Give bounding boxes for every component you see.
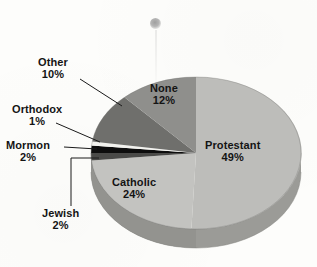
pie-top-face (91, 77, 302, 229)
leader-line-other (80, 79, 122, 106)
leader-line-orthodox (56, 123, 100, 142)
slice-label-jewish: Jewish 2% (42, 208, 79, 232)
slice-label-mormon-pct: 2% (6, 152, 50, 164)
slice-label-none-pct: 12% (150, 95, 178, 107)
slice-label-mormon: Mormon 2% (6, 140, 50, 164)
slice-label-jewish-pct: 2% (42, 220, 79, 232)
slice-label-catholic: Catholic 24% (112, 177, 156, 201)
slice-label-catholic-pct: 24% (112, 189, 156, 201)
slice-label-none: None 12% (150, 83, 178, 107)
slice-label-protestant-pct: 49% (205, 152, 260, 164)
slice-label-orthodox: Orthodox 1% (12, 104, 62, 128)
slice-label-other: Other 10% (38, 57, 68, 81)
slice-label-orthodox-pct: 1% (12, 116, 62, 128)
chart-canvas: Other 10% Orthodox 1% Mormon 2% Jewish 2… (0, 0, 317, 267)
slice-label-protestant: Protestant 49% (205, 140, 260, 164)
slice-label-other-pct: 10% (38, 69, 68, 81)
